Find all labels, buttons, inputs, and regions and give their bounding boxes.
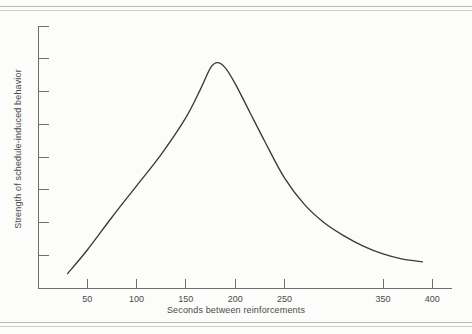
y-axis-title-container: Strength of schedule-induced behavior (10, 18, 26, 280)
x-tick-label: 400 (425, 294, 440, 304)
axes-group (38, 26, 452, 288)
x-tick-label: 250 (277, 294, 292, 304)
bottom-border-rules (0, 322, 472, 327)
x-tick-label: 50 (82, 294, 92, 304)
x-axis-title: Seconds between reinforcements (0, 305, 472, 315)
x-tick-label: 100 (129, 294, 144, 304)
axis-lines (38, 26, 452, 288)
plot-area: 50100150200250350400 (0, 14, 472, 306)
figure-root: 50100150200250350400 Strength of schedul… (0, 0, 472, 334)
y-axis-title: Strength of schedule-induced behavior (13, 69, 23, 229)
top-rule-lower (0, 10, 472, 11)
chart-svg: 50100150200250350400 (0, 14, 472, 306)
x-tick-label: 200 (228, 294, 243, 304)
data-curve-group (68, 63, 423, 274)
top-border-rules (0, 6, 472, 11)
data-curve (68, 63, 423, 274)
bottom-rule-lower (0, 326, 472, 327)
x-tick-label: 150 (178, 294, 193, 304)
x-tick-label: 350 (375, 294, 390, 304)
x-tick-labels-group: 50100150200250350400 (82, 294, 440, 304)
tick-marks-group (38, 26, 432, 288)
